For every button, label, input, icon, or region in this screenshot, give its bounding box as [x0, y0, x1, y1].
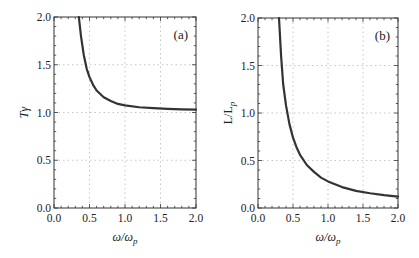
y-tick-label: 1.0 — [37, 107, 52, 119]
x-tick-label: 0.5 — [286, 212, 301, 224]
x-tick-label: 2.0 — [189, 212, 204, 224]
x-tick-label: 0.5 — [82, 212, 97, 224]
tick-labels: 0.00.51.01.52.00.00.51.01.52.0 — [241, 12, 406, 224]
x-axis-label: ω/ωp — [316, 230, 341, 246]
panel-tag: (a) — [174, 27, 188, 42]
grid-lines — [258, 18, 398, 208]
y-axis-label: L/Lp — [221, 101, 237, 124]
x-axis-label: ω/ωp — [113, 230, 138, 246]
chart-panel-b: 0.00.51.01.52.00.00.51.01.52.0(b)ω/ωpL/L… — [221, 12, 405, 246]
y-tick-label: 1.5 — [37, 59, 52, 71]
figure: 0.00.51.01.52.00.00.51.01.52.0(a)ω/ωpTγ0… — [0, 0, 419, 258]
y-tick-label: 1.0 — [241, 107, 256, 119]
y-tick-label: 0.0 — [37, 202, 52, 214]
panel-tag: (b) — [375, 28, 390, 43]
x-tick-label: 1.5 — [356, 212, 371, 224]
x-tick-label: 1.0 — [118, 212, 133, 224]
chart-panel-a: 0.00.51.01.52.00.00.51.01.52.0(a)ω/ωpTγ — [17, 11, 203, 246]
y-axis-label: Tγ — [17, 107, 31, 119]
y-tick-label: 1.5 — [241, 60, 256, 72]
tick-labels: 0.00.51.01.52.00.00.51.01.52.0 — [37, 11, 204, 224]
x-tick-label: 1.5 — [153, 212, 168, 224]
y-tick-label: 2.0 — [37, 11, 52, 23]
data-curve — [279, 18, 398, 197]
grid-lines — [54, 17, 196, 208]
y-tick-label: 0.0 — [241, 202, 256, 214]
y-tick-label: 0.5 — [37, 154, 52, 166]
y-tick-label: 2.0 — [241, 12, 256, 24]
y-tick-label: 0.5 — [241, 155, 256, 167]
x-tick-label: 1.0 — [321, 212, 336, 224]
x-tick-label: 2.0 — [391, 212, 406, 224]
